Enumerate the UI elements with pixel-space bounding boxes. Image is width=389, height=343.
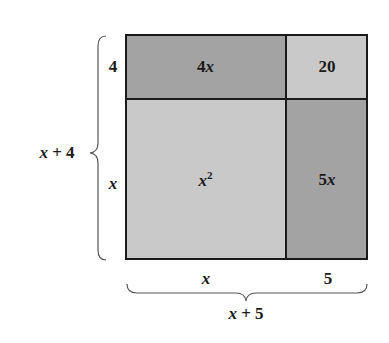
left-brace-label: x + 4	[39, 143, 74, 163]
left-brace-icon	[90, 36, 106, 260]
brace-icon	[0, 0, 389, 343]
bottom-brace-label: x + 5	[228, 304, 263, 324]
bottom-brace-icon	[127, 284, 367, 301]
area-model-diagram: 4x 20 x2 5x 4 x x 5 x + 4 x + 5	[0, 0, 389, 343]
